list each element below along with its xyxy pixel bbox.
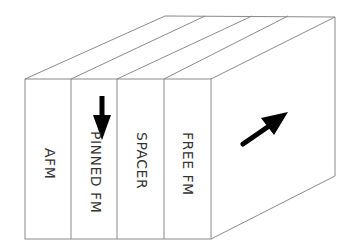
layer-label-pinned-fm: PINNED FM: [89, 131, 103, 213]
layer-label-free-fm: FREE FM: [181, 132, 195, 196]
layer-stack-diagram: [0, 0, 355, 251]
top-divider-3: [164, 16, 288, 79]
layer-label-spacer: SPACER: [135, 132, 149, 189]
top-face: [25, 16, 335, 79]
arrow-diagonal-icon: [243, 112, 288, 144]
layer-label-afm: AFM: [43, 148, 57, 179]
